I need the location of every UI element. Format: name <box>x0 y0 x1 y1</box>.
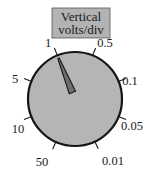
tick-label-0-1[interactable]: 0.1 <box>122 74 138 88</box>
dial-diagram: Vertical volts/div 10.50.10.050.0150105 <box>0 0 160 176</box>
tick-label-0-5[interactable]: 0.5 <box>97 36 113 50</box>
dial-figure: Vertical volts/div 10.50.10.050.0150105 <box>0 0 160 176</box>
tick-label-10[interactable]: 10 <box>12 122 25 136</box>
tick-label-5[interactable]: 5 <box>12 72 18 86</box>
tick-label-1[interactable]: 1 <box>45 36 51 50</box>
tick-label-0-01[interactable]: 0.01 <box>102 154 124 168</box>
caption-box-group: Vertical volts/div <box>52 8 110 38</box>
tick-label-0-05[interactable]: 0.05 <box>121 119 143 133</box>
tick-label-50[interactable]: 50 <box>36 155 49 169</box>
dial-face[interactable] <box>28 52 122 146</box>
caption-line-volts-per-div: volts/div <box>58 22 104 37</box>
